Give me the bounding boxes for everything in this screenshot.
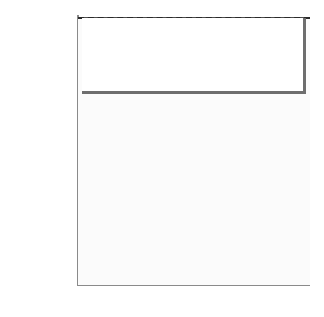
annotation-during-intense-activity bbox=[98, 108, 218, 122]
chart-figure bbox=[0, 0, 324, 317]
y-axis-title-container bbox=[0, 0, 56, 290]
chart-legend bbox=[82, 18, 306, 94]
y-axis-tick-labels bbox=[52, 0, 74, 317]
